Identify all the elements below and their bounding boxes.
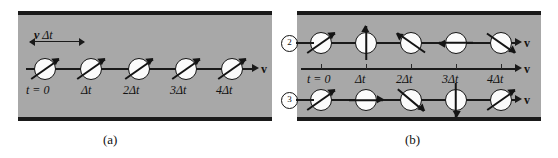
- spin-arrow-icon: [487, 33, 516, 54]
- particle: [175, 58, 197, 80]
- particle: [34, 58, 56, 80]
- particle: [445, 89, 467, 111]
- channel-panel-b: v v t = 0 Δt 2Δt 3Δt 4Δt v: [297, 11, 541, 121]
- particle: [445, 32, 467, 54]
- row-connector-2: [296, 42, 314, 44]
- axis-arrowhead-row3: [515, 95, 522, 103]
- axis-line-time: [301, 68, 517, 70]
- axis-tick: [456, 64, 457, 69]
- time-label: 4Δt: [216, 83, 232, 98]
- spin-arrow-icon: [397, 33, 426, 54]
- axis-tick: [411, 64, 412, 69]
- time-label: Δt: [81, 83, 91, 98]
- axis-tick: [321, 64, 322, 69]
- time-label: 3Δt: [170, 83, 186, 98]
- channel-panel-a: v Δt v t = 0 Δt 2Δt 3Δt 4Δt: [18, 11, 272, 121]
- axis-tick: [501, 64, 502, 69]
- velocity-label-row3: v: [524, 93, 530, 108]
- panel-caption-a: (a): [103, 132, 117, 148]
- particle: [355, 89, 377, 111]
- spin-arrow-icon: [349, 99, 383, 101]
- spin-arrow-icon: [31, 59, 60, 80]
- particle: [355, 32, 377, 54]
- time-label: 2Δt: [123, 83, 139, 98]
- spin-arrow-icon: [487, 90, 516, 111]
- axis-arrowhead-a: [252, 64, 259, 72]
- panel-caption-b: (b): [405, 132, 420, 148]
- particle: [221, 58, 243, 80]
- spin-arrow-icon: [125, 59, 154, 80]
- velocity-label-time: v: [524, 62, 530, 77]
- spin-arrow-icon: [455, 83, 457, 117]
- axis-tick: [366, 64, 367, 69]
- spin-arrow-icon: [77, 59, 106, 80]
- spin-arrow-icon: [397, 88, 424, 111]
- time-label: t = 0: [307, 72, 330, 87]
- spin-arrow-icon: [365, 26, 367, 60]
- dimension-bracket: [30, 41, 84, 42]
- time-label: Δt: [355, 72, 365, 87]
- velocity-label-row2: v: [524, 36, 530, 51]
- particle: [490, 89, 512, 111]
- particle: [400, 89, 422, 111]
- particle: [400, 32, 422, 54]
- velocity-label-a: v: [261, 62, 267, 77]
- spin-arrow-icon: [439, 42, 473, 44]
- axis-arrowhead-time: [515, 64, 522, 72]
- row-connector-3: [296, 99, 314, 101]
- particle: [490, 32, 512, 54]
- time-label: 4Δt: [487, 72, 503, 87]
- particle: [128, 58, 150, 80]
- spin-arrow-icon: [172, 59, 201, 80]
- spin-arrow-icon: [218, 59, 247, 80]
- row-number-badge-2: 2: [281, 35, 298, 52]
- particle: [80, 58, 102, 80]
- time-label: 2Δt: [396, 72, 412, 87]
- row-number-badge-3: 3: [281, 92, 298, 109]
- time-label: t = 0: [26, 83, 49, 98]
- axis-arrowhead-row2: [515, 38, 522, 46]
